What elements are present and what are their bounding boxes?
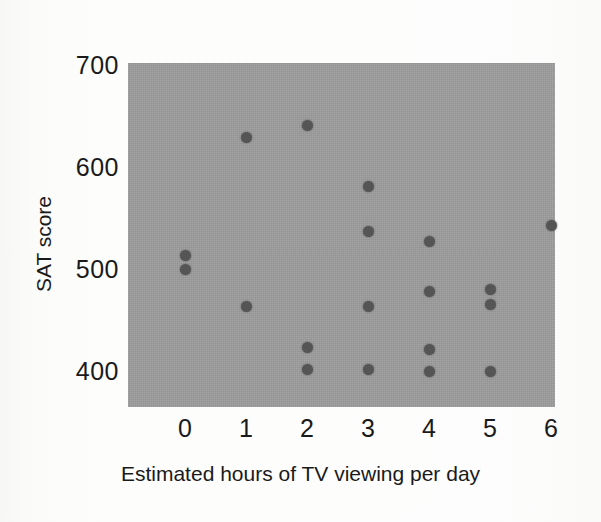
x-tick-label: 4 bbox=[422, 414, 436, 443]
data-point bbox=[363, 226, 374, 237]
data-point bbox=[363, 364, 374, 375]
y-tick-label: 400 bbox=[76, 357, 119, 386]
x-tick-label: 6 bbox=[544, 414, 558, 443]
data-point bbox=[424, 236, 435, 247]
y-tick-label: 500 bbox=[76, 255, 119, 284]
y-tick-label: 600 bbox=[76, 153, 119, 182]
data-point bbox=[180, 264, 191, 275]
data-point bbox=[241, 301, 252, 312]
data-point bbox=[180, 250, 191, 261]
x-tick-label: 5 bbox=[483, 414, 497, 443]
x-tick-label: 0 bbox=[178, 414, 192, 443]
data-point bbox=[363, 181, 374, 192]
data-point bbox=[485, 366, 496, 377]
data-point bbox=[485, 284, 496, 295]
x-tick-label: 3 bbox=[361, 414, 375, 443]
data-point bbox=[485, 299, 496, 310]
data-point bbox=[302, 120, 313, 131]
data-point bbox=[424, 366, 435, 377]
figure-page: 400500600700 SAT score Estimated hours o… bbox=[0, 0, 601, 522]
data-point bbox=[302, 342, 313, 353]
data-point bbox=[302, 364, 313, 375]
y-tick-label: 700 bbox=[76, 51, 119, 80]
data-point bbox=[241, 132, 252, 143]
x-tick-label: 1 bbox=[239, 414, 253, 443]
x-tick-label: 2 bbox=[300, 414, 314, 443]
plot-area bbox=[128, 63, 555, 407]
data-point bbox=[424, 286, 435, 297]
data-point bbox=[424, 344, 435, 355]
data-point bbox=[546, 220, 557, 231]
data-point bbox=[363, 301, 374, 312]
scatter-chart: 400500600700 SAT score Estimated hours o… bbox=[0, 0, 601, 522]
y-axis-label: SAT score bbox=[32, 164, 56, 324]
y-axis-ticks: 400500600700 bbox=[0, 0, 119, 522]
x-axis-label: Estimated hours of TV viewing per day bbox=[0, 462, 601, 486]
